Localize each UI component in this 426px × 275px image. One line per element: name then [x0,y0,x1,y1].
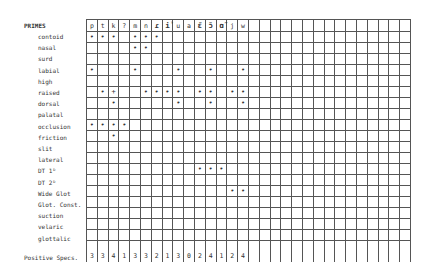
feature-cell [270,131,281,142]
feature-row [87,219,411,230]
feature-cell: • [108,120,119,131]
column-header [292,20,303,32]
column-header: j [227,20,238,32]
feature-cell [162,197,173,208]
positive-spec-count [259,250,270,262]
feature-cell [194,219,205,230]
feature-cell [162,65,173,76]
feature-cell [227,219,238,230]
feature-row: •• [87,43,411,54]
feature-cell [205,186,216,197]
feature-cell [97,219,108,230]
feature-cell [173,153,184,164]
feature-cell [248,43,259,54]
feature-cell [292,43,303,54]
feature-cell [367,219,378,230]
feature-cell [281,76,292,87]
feature-cell [302,98,313,109]
feature-cell [97,43,108,54]
feature-row [87,175,411,186]
feature-cell [302,131,313,142]
feature-cell [270,43,281,54]
feature-cell [313,120,324,131]
feature-cell [108,153,119,164]
feature-cell [173,54,184,65]
feature-cell [356,65,367,76]
feature-cell [173,175,184,186]
feature-cell [97,164,108,175]
feature-cell [227,208,238,219]
positive-spec-count [313,250,324,262]
feature-cell: • [227,186,238,197]
feature-cell [162,164,173,175]
feature-cell [281,32,292,43]
feature-row [87,76,411,87]
feature-cell [130,54,141,65]
column-header: ɾ [151,20,162,32]
positive-spec-count: 4 [238,250,249,262]
feature-cell [313,131,324,142]
feature-cell [238,32,249,43]
feature-cell [108,230,119,241]
feature-cell [248,87,259,98]
feature-cell [302,197,313,208]
feature-cell [97,98,108,109]
feature-cell [302,219,313,230]
feature-cell [140,230,151,241]
feature-row [87,109,411,120]
feature-cell [173,164,184,175]
feature-cell [184,219,195,230]
feature-cell [378,175,389,186]
feature-cell [259,32,270,43]
feature-cell [119,197,130,208]
column-header [356,20,367,32]
feature-cell [302,54,313,65]
feature-cell [97,76,108,87]
feature-cell [313,109,324,120]
feature-cell [162,54,173,65]
feature-cell [400,197,411,208]
spacer-cell [335,241,346,251]
feature-cell [378,65,389,76]
feature-cell [313,54,324,65]
feature-cell [205,153,216,164]
feature-cell [205,208,216,219]
feature-cell [356,76,367,87]
feature-cell [108,43,119,54]
feature-cell [108,164,119,175]
feature-cell [87,208,98,219]
feature-cell [270,87,281,98]
spacer-cell [356,241,367,251]
feature-cell [292,76,303,87]
spacer-cell [162,241,173,251]
positive-spec-count [324,250,335,262]
feature-cell [140,98,151,109]
feature-cell [389,65,400,76]
header-row: ptk?mnɾỉuaɛ̃ɔ̃ɑ̃jw [87,20,411,32]
feature-cell [238,175,249,186]
feature-cell [302,120,313,131]
feature-cell [378,186,389,197]
feature-cell [281,153,292,164]
positive-spec-count [270,250,281,262]
feature-cell [281,142,292,153]
feature-cell [270,76,281,87]
feature-cell [238,197,249,208]
spacer-cell [302,241,313,251]
feature-cell [216,32,227,43]
feature-cell [184,197,195,208]
spacer-cell [238,241,249,251]
feature-matrix: ptk?mnɾỉuaɛ̃ɔ̃ɑ̃jw••••••••••••••+•••••••… [86,19,411,262]
feature-cell [281,131,292,142]
feature-cell [270,164,281,175]
feature-cell [356,219,367,230]
feature-cell: • [151,87,162,98]
feature-cell [130,164,141,175]
feature-label: raised [38,89,60,97]
positive-spec-count: 1 [162,250,173,262]
feature-cell [259,186,270,197]
feature-label: occlusion [38,123,71,131]
column-header [378,20,389,32]
spacer-cell [87,241,98,251]
feature-cell [389,120,400,131]
